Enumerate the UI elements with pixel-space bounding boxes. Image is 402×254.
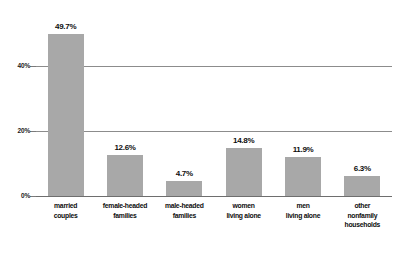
bar-value-label: 12.6% (95, 143, 155, 152)
category-label-line: living alone (214, 211, 273, 221)
category-label: othernonfamilyhouseholds (333, 201, 392, 230)
bar (285, 157, 321, 196)
bar (166, 181, 202, 196)
bar-chart: 40% 20% 0% 49.7%12.6%4.7%14.8%11.9%6.3% … (0, 0, 402, 254)
bar (344, 176, 380, 196)
category-label-line: female-headed (95, 201, 154, 211)
bar-value-label: 6.3% (332, 164, 392, 173)
category-label: menliving alone (273, 201, 332, 220)
bar-value-label: 49.7% (36, 22, 96, 31)
ytick-0: 0% (0, 192, 30, 200)
ytick-label-0: 0% (2, 192, 30, 199)
tick-40 (30, 66, 36, 67)
bar-value-label: 14.8% (214, 136, 274, 145)
tick-0 (30, 196, 36, 197)
ytick-label-20: 20% (2, 127, 30, 134)
bar (226, 148, 262, 196)
bar-value-label: 11.9% (273, 145, 333, 154)
category-label-line: nonfamily (333, 211, 392, 221)
category-label-line: men (273, 201, 332, 211)
category-label-line: households (333, 220, 392, 230)
category-label: male-headedfamilies (155, 201, 214, 220)
axis-baseline-0 (36, 196, 392, 197)
category-label-line: families (95, 211, 154, 221)
plot-area: 40% 20% 0% 49.7%12.6%4.7%14.8%11.9%6.3% … (0, 0, 402, 254)
category-label-line: male-headed (155, 201, 214, 211)
ytick-40: 40% (0, 62, 30, 70)
category-label: female-headedfamilies (95, 201, 154, 220)
tick-20 (30, 131, 36, 132)
category-label: marriedcouples (36, 201, 95, 220)
category-label-line: families (155, 211, 214, 221)
category-label-line: women (214, 201, 273, 211)
category-label-line: living alone (273, 211, 332, 221)
category-label-line: couples (36, 211, 95, 221)
bar-value-label: 4.7% (154, 169, 214, 178)
ytick-20: 20% (0, 127, 30, 135)
gridline-40 (36, 66, 392, 67)
category-label-line: married (36, 201, 95, 211)
category-label: womenliving alone (214, 201, 273, 220)
ytick-label-40: 40% (2, 62, 30, 69)
bar (48, 34, 84, 196)
category-label-line: other (333, 201, 392, 211)
gridline-20 (36, 131, 392, 132)
bar (107, 155, 143, 196)
